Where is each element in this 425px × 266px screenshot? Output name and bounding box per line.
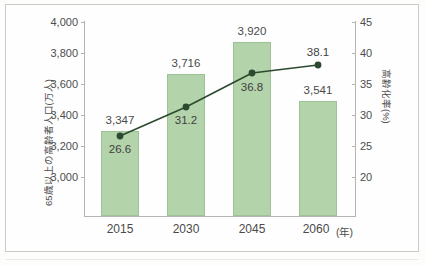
rate-line-path bbox=[120, 65, 318, 136]
right-axis-tick bbox=[352, 84, 356, 85]
rate-marker-2060 bbox=[315, 62, 322, 69]
right-axis-title: 高齢化率(%) bbox=[380, 69, 394, 124]
x-axis-category-label-2045: 2045 bbox=[227, 222, 277, 236]
bar-2060 bbox=[299, 101, 337, 216]
left-axis-tick bbox=[81, 84, 85, 85]
bar-value-label-2060: 3,541 bbox=[293, 84, 343, 96]
right-axis-tick-label: 35 bbox=[360, 78, 372, 90]
right-axis-tick bbox=[352, 115, 356, 116]
chart-figure: 4,000 3,800 3,600 3,400 3,200 3,000 65歳以… bbox=[0, 0, 425, 266]
left-axis-tick bbox=[81, 22, 85, 23]
right-axis-tick-label: 40 bbox=[360, 47, 372, 59]
rate-value-label-2060: 38.1 bbox=[293, 46, 343, 58]
right-axis-tick bbox=[352, 53, 356, 54]
left-axis-tick bbox=[81, 115, 85, 116]
right-axis-tick bbox=[352, 146, 356, 147]
right-axis-tick bbox=[352, 177, 356, 178]
bar-2030 bbox=[167, 74, 205, 216]
x-axis-baseline bbox=[84, 216, 356, 217]
bar-2045 bbox=[233, 42, 271, 216]
x-axis-unit-label: (年) bbox=[336, 224, 353, 239]
left-axis-line bbox=[84, 21, 85, 217]
x-axis-category-label-2060: 2060 bbox=[291, 222, 341, 236]
left-axis-tick bbox=[81, 53, 85, 54]
right-axis-tick-label: 45 bbox=[360, 16, 372, 28]
rate-value-label-2015: 26.6 bbox=[95, 143, 145, 155]
bar-value-label-2030: 3,716 bbox=[161, 57, 211, 69]
x-axis-category-label-2030: 2030 bbox=[161, 222, 211, 236]
rate-value-label-2030: 31.2 bbox=[161, 114, 211, 126]
left-axis-tick bbox=[81, 177, 85, 178]
plot-area: 4,000 3,800 3,600 3,400 3,200 3,000 65歳以… bbox=[0, 0, 425, 266]
rate-line-series bbox=[0, 0, 425, 266]
bar-value-label-2015: 3,347 bbox=[95, 114, 145, 126]
left-axis-title: 65歳以上の高齢者人口(万人) bbox=[41, 79, 55, 206]
bar-value-label-2045: 3,920 bbox=[227, 25, 277, 37]
rate-value-label-2045: 36.8 bbox=[227, 81, 277, 93]
x-axis-category-label-2015: 2015 bbox=[95, 222, 145, 236]
left-axis-tick-label: 3,800 bbox=[44, 47, 78, 59]
right-axis-tick-label: 30 bbox=[360, 109, 372, 121]
left-axis-tick-label: 4,000 bbox=[44, 16, 78, 28]
right-axis-line bbox=[355, 21, 356, 217]
right-axis-tick-label: 20 bbox=[360, 171, 372, 183]
right-axis-tick bbox=[352, 22, 356, 23]
right-axis-tick-label: 25 bbox=[360, 140, 372, 152]
left-axis-tick bbox=[81, 146, 85, 147]
